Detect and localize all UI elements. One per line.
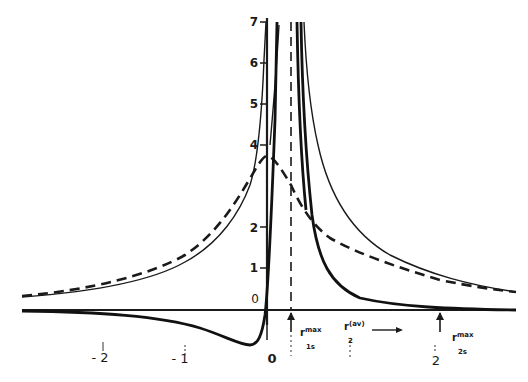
y-tick-label-1: 1 <box>250 262 258 274</box>
x-tick-label-neg1: - 1 <box>171 352 188 365</box>
y-tick-label-7: 7 <box>250 16 258 28</box>
radial-density-chart <box>0 0 528 382</box>
thick-solid-curve <box>22 22 516 345</box>
r1s-sup: max <box>305 326 322 334</box>
x-tick-label-neg2: - 2 <box>91 351 108 364</box>
y-tick-label-5: 5 <box>250 98 258 110</box>
r2av-sub: 2 <box>348 337 353 345</box>
r1s-max-arrow <box>287 312 295 332</box>
r2s-max-annotation: rmax 2s <box>452 332 473 356</box>
r1s-sub: 1s <box>306 343 315 351</box>
r2av-sup: (av) <box>349 320 365 328</box>
r1s-max-annotation: rmax 1s <box>300 327 321 351</box>
r2s-sup: max <box>457 331 474 339</box>
y-tick-label-2: 2 <box>250 222 258 234</box>
r2s-max-arrow <box>436 312 444 332</box>
r2-av-arrow <box>372 327 403 333</box>
r2-av-annotation: r(av) 2 <box>344 321 365 345</box>
r2s-sub: 2s <box>458 348 467 356</box>
y-tick-label-4: 4 <box>250 139 258 151</box>
y-tick-label-6: 6 <box>250 57 258 69</box>
x-tick-label-2: 2 <box>432 354 440 367</box>
y-tick-label-0: 0 <box>251 293 259 305</box>
x-tick-label-0: 0 <box>267 352 276 365</box>
